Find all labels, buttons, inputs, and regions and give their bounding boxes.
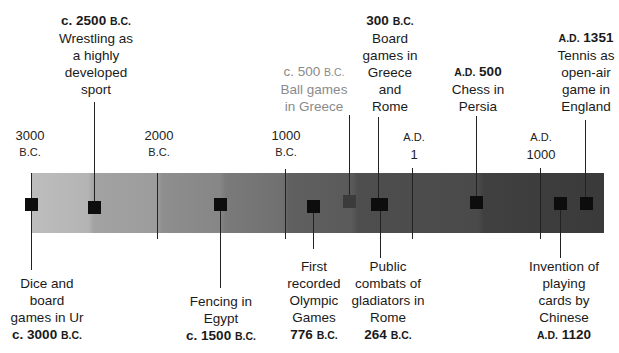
event-text-line: Dice and [4,275,90,292]
event-text-line: open-air [550,64,619,81]
tick-line-1000bc [285,169,286,239]
event-text-line: Rome [346,309,430,326]
tick-era: A.D. [513,129,569,146]
marker-3000bc [25,198,38,211]
event-date: A.D. 1351 [550,29,619,47]
tick-line-3000bc [31,173,32,270]
event-text-line: board [4,292,90,309]
event-text-line: games in Ur [4,309,90,326]
tick-label-3000bc: 3000 B.C. [2,127,58,161]
tick-line-ad1 [412,168,413,239]
event-fencing: Fencing in Egypt c. 1500 B.C. [178,293,264,345]
event-text-line: Egypt [178,310,264,327]
connector-776bc [313,210,314,249]
marker-500bc [343,195,356,208]
tick-value: 2000 [145,128,174,143]
event-text-line: and [355,81,425,98]
event-text-line: Persia [440,98,516,115]
marker-ad1120 [554,197,567,210]
event-chess: A.D. 500 Chess in Persia [440,63,516,115]
event-text-line: in Greece [274,98,354,115]
event-text-line: Fencing in [178,293,264,310]
connector-ad1351 [585,120,586,201]
marker-ad1351 [580,197,593,210]
event-text-line: Invention of [522,258,606,275]
event-text-line: game in [550,81,619,98]
marker-ad500 [470,196,483,209]
tick-era: B.C. [258,144,314,161]
tick-era: B.C. [131,144,187,161]
tick-era: B.C. [2,144,58,161]
event-text-line: Chinese [522,309,606,326]
event-text-line: combats of [346,275,430,292]
tick-label-1000bc: 1000 B.C. [258,127,314,161]
event-date: c. 1500 B.C. [178,327,264,345]
connector-2500bc [94,102,95,202]
event-text-line: a highly [48,47,144,64]
tick-value: 3000 [16,128,45,143]
event-date: c. 3000 B.C. [4,326,90,344]
tick-line-ad1000 [540,168,541,239]
marker-1500bc [214,198,227,211]
event-text-line: Games [282,309,346,326]
event-olympics: First recorded Olympic Games 776 B.C. [282,258,346,344]
tick-value: 1000 [272,128,301,143]
event-text-line: Wrestling as [48,30,144,47]
event-gladiators: Public combats of gladiators in Rome 264… [346,258,430,344]
connector-1500bc [220,208,221,288]
event-dice: Dice and board games in Ur c. 3000 B.C. [4,275,90,344]
event-text-line: First [282,258,346,275]
event-text-line: playing [522,275,606,292]
marker-776bc [307,200,320,213]
event-playing-cards: Invention of playing cards by Chinese A.… [522,258,606,344]
event-date: c. 500 B.C. [274,63,354,81]
event-text-line: developed [48,64,144,81]
event-text-line: sport [48,81,144,98]
event-text-line: recorded [282,275,346,292]
tick-line-2000bc [157,173,158,239]
event-date: 300 B.C. [355,12,425,30]
event-text-line: games in [355,47,425,64]
event-text-line: Tennis as [550,47,619,64]
connector-ad500 [476,116,477,201]
event-text-line: Ball games [274,81,354,98]
marker-2500bc [88,201,101,214]
event-date: 776 B.C. [282,326,346,344]
connector-300bc [378,117,379,202]
connector-ad1120 [560,208,561,258]
event-tennis: A.D. 1351 Tennis as open-air game in Eng… [550,29,619,115]
connector-264bc [380,210,381,258]
tick-label-ad1000: A.D. 1000 [513,129,569,163]
event-text-line: cards by [522,292,606,309]
tick-label-ad1: A.D. 1 [386,129,442,163]
tick-era: A.D. [386,129,442,146]
marker-300bc [371,198,388,211]
event-board-games: 300 B.C. Board games in Greece and Rome [355,12,425,115]
event-text-line: Board [355,30,425,47]
tick-value: 1000 [527,147,556,162]
event-date: A.D. 1120 [522,326,606,344]
event-text-line: Olympic [282,292,346,309]
tick-label-2000bc: 2000 B.C. [131,127,187,161]
event-date: A.D. 500 [440,63,516,81]
event-text-line: Rome [355,98,425,115]
event-date: c. 2500 B.C. [48,12,144,30]
event-text-line: Chess in [440,81,516,98]
event-text-line: England [550,98,619,115]
event-text-line: Public [346,258,430,275]
event-wrestling: c. 2500 B.C. Wrestling as a highly devel… [48,12,144,98]
tick-value: 1 [410,147,417,162]
event-date: 264 B.C. [346,326,430,344]
event-text-line: Greece [355,64,425,81]
event-text-line: gladiators in [346,292,430,309]
connector-500bc [349,115,350,198]
event-ball-games: c. 500 B.C. Ball games in Greece [274,63,354,115]
